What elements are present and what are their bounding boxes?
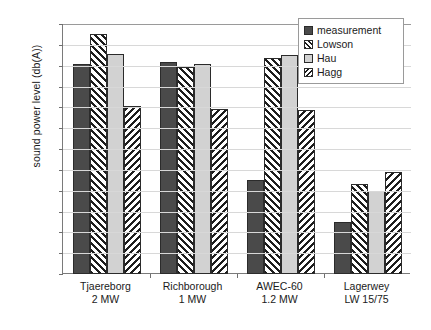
x-label-line2: 2 MW	[62, 293, 149, 306]
y-gridline	[63, 128, 411, 129]
legend-item-measurement: measurement	[304, 23, 397, 37]
x-tick-mark	[150, 274, 151, 278]
bar-lowson-3	[264, 58, 281, 274]
x-axis-label-2: Richborough1 MW	[149, 280, 236, 306]
x-label-line1: AWEC-60	[256, 280, 302, 292]
y-tick-mark	[59, 170, 63, 171]
bar-measurement-1	[73, 64, 90, 274]
x-axis-label-1: Tjaereborg2 MW	[62, 280, 149, 306]
y-gridline	[63, 87, 411, 88]
y-tick-mark	[59, 66, 63, 67]
legend-swatch-measurement-icon	[304, 26, 313, 35]
bar-measurement-3	[247, 180, 264, 274]
legend-swatch-lowson-icon	[304, 40, 313, 49]
y-gridline	[63, 212, 411, 213]
x-label-line1: Lagerwey	[344, 280, 390, 292]
legend-item-hagg: Hagg	[304, 65, 397, 79]
bar-chart: sound power level (db(A)) 11411211010810…	[0, 0, 431, 330]
bar-hau-3	[281, 55, 298, 274]
y-tick-mark	[59, 149, 63, 150]
y-gridline	[63, 149, 411, 150]
bar-hagg-2	[211, 109, 228, 274]
y-tick-mark	[59, 24, 63, 25]
y-tick-mark	[59, 253, 63, 254]
legend-swatch-hagg-icon	[304, 68, 313, 77]
x-label-line2: 1 MW	[149, 293, 236, 306]
y-tick-mark	[59, 232, 63, 233]
y-gridline	[63, 232, 411, 233]
y-gridline	[63, 170, 411, 171]
chart-legend: measurement Lowson Hau Hagg	[298, 18, 404, 84]
bar-measurement-2	[160, 62, 177, 275]
x-label-line1: Richborough	[163, 280, 223, 292]
x-tick-mark	[324, 274, 325, 278]
bar-lowson-4	[351, 184, 368, 274]
x-axis-labels: Tjaereborg2 MWRichborough1 MWAWEC-601.2 …	[62, 280, 410, 306]
legend-item-lowson: Lowson	[304, 37, 397, 51]
x-tick-mark	[237, 274, 238, 278]
y-tick-mark	[59, 191, 63, 192]
x-axis-label-3: AWEC-601.2 MW	[236, 280, 323, 306]
x-label-line2: 1.2 MW	[236, 293, 323, 306]
legend-swatch-hau-icon	[304, 54, 313, 63]
y-gridline	[63, 253, 411, 254]
legend-label-hau: Hau	[317, 52, 336, 64]
y-gridline	[63, 107, 411, 108]
legend-item-hau: Hau	[304, 51, 397, 65]
y-tick-mark	[59, 128, 63, 129]
legend-label-hagg: Hagg	[317, 66, 342, 78]
x-label-line1: Tjaereborg	[80, 280, 131, 292]
y-tick-mark	[59, 212, 63, 213]
y-tick-mark	[59, 274, 63, 275]
legend-label-measurement: measurement	[317, 24, 381, 36]
y-tick-mark	[59, 107, 63, 108]
y-axis-title: sound power level (db(A))	[30, 26, 42, 186]
bar-hagg-4	[385, 172, 402, 274]
y-tick-mark	[59, 45, 63, 46]
legend-label-lowson: Lowson	[317, 38, 353, 50]
bar-measurement-4	[334, 222, 351, 274]
y-tick-mark	[59, 87, 63, 88]
bar-lowson-1	[90, 34, 107, 274]
y-gridline	[63, 191, 411, 192]
x-axis-label-4: LagerweyLW 15/75	[323, 280, 410, 306]
bar-hau-2	[194, 64, 211, 274]
x-label-line2: LW 15/75	[323, 293, 410, 306]
bar-hagg-3	[298, 110, 315, 274]
